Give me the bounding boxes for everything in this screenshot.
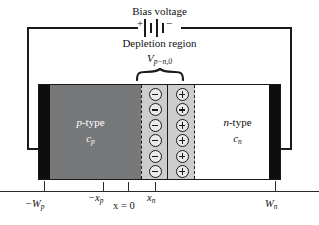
position-axis-line <box>0 191 319 192</box>
axis-label-subscript: n <box>274 202 278 211</box>
p-concentration-subscript: p <box>91 137 95 146</box>
negative-charge-icon <box>149 119 162 132</box>
junction-line-x-zero <box>167 85 168 179</box>
n-concentration-label: cn <box>195 133 280 146</box>
depletion-region-label: Depletion region <box>0 38 319 49</box>
battery-plus-sign: + <box>137 17 143 29</box>
positive-charge-icon <box>176 88 189 101</box>
battery-symbol: + − <box>138 18 181 38</box>
negative-charge-icon <box>149 88 162 101</box>
potential-subscript: p−n,0 <box>154 57 172 66</box>
built-in-potential-label: Vp−n,0 <box>0 53 319 66</box>
axis-tick-minus-wp <box>44 181 45 191</box>
battery-plate-long-1 <box>144 19 146 37</box>
axis-label-minus-wp: −Wp <box>25 198 45 211</box>
potential-symbol: V <box>147 52 154 64</box>
axis-label-subscript: p <box>100 196 104 205</box>
battery-plate-short-1 <box>150 23 152 33</box>
semiconductor-block <box>38 84 281 180</box>
positive-charge-icon <box>176 165 189 178</box>
negative-charge-icon <box>149 165 162 178</box>
wire-right-vertical <box>290 27 292 150</box>
positive-charge-column <box>170 88 194 178</box>
electrode-left-contact <box>39 85 50 179</box>
axis-label-x-zero: x = 0 <box>113 200 135 211</box>
battery-plate-short-2 <box>162 23 164 33</box>
axis-label-subscript: p <box>41 202 45 211</box>
axis-label-text: −x <box>88 192 100 203</box>
depletion-region-brace <box>136 68 184 81</box>
wire-top-left-segment <box>27 27 138 29</box>
negative-charge-icon <box>149 103 162 116</box>
negative-charge-icon <box>149 150 162 163</box>
axis-tick-minus-xp <box>103 182 104 191</box>
negative-charge-icon <box>149 134 162 147</box>
positive-charge-icon <box>176 150 189 163</box>
axis-label-subscript: n <box>152 196 156 205</box>
p-type-suffix: -type <box>82 116 105 128</box>
axis-label-text: x = 0 <box>113 200 135 211</box>
n-type-label: n-type <box>195 117 280 128</box>
depletion-boundary-right-dashed <box>194 85 195 179</box>
p-type-label: p-type <box>45 117 136 128</box>
pn-junction-diagram: Bias voltage Depletion region Vp−n,0 + − <box>0 0 319 225</box>
axis-label-text: W <box>265 198 274 209</box>
axis-label-text: −W <box>25 198 41 209</box>
p-type-region <box>50 85 141 179</box>
axis-label-wn: Wn <box>265 198 278 211</box>
p-concentration-label: cp <box>45 133 136 146</box>
axis-tick-x-zero <box>128 182 129 191</box>
positive-charge-icon <box>176 103 189 116</box>
axis-label-minus-xp: −xp <box>88 192 104 205</box>
axis-tick-wn <box>275 181 276 191</box>
electrode-right-contact <box>269 85 280 179</box>
wire-top-right-segment <box>181 27 292 29</box>
wire-left-vertical <box>27 27 29 150</box>
depletion-boundary-left-dashed <box>141 85 142 179</box>
battery-minus-sign: − <box>166 17 172 29</box>
negative-charge-column <box>143 88 167 178</box>
n-concentration-subscript: n <box>238 137 242 146</box>
n-type-suffix: -type <box>229 116 252 128</box>
battery-plate-long-2 <box>156 19 158 37</box>
positive-charge-icon <box>176 134 189 147</box>
positive-charge-icon <box>176 119 189 132</box>
bias-voltage-label: Bias voltage <box>0 6 319 17</box>
axis-tick-xn <box>155 182 156 191</box>
axis-label-xn: xn <box>147 192 155 205</box>
